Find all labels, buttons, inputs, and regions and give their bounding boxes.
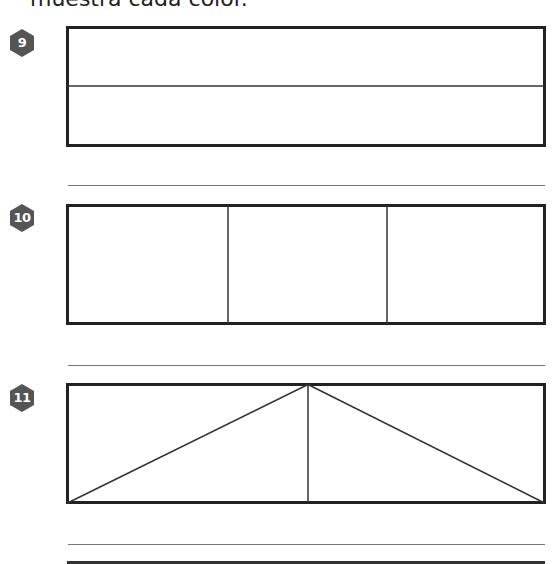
problem-number-badge: 11 [9,384,35,412]
figure-triangles [66,383,546,505]
answer-line [68,365,545,366]
answer-line [68,185,545,186]
instruction-text: muestra cada color. [30,0,248,11]
problem-number-badge: 10 [9,204,35,232]
figure-halves [66,26,546,148]
problem-number-badge: 9 [9,29,35,57]
figure-thirds [66,204,546,326]
answer-line [68,544,545,545]
